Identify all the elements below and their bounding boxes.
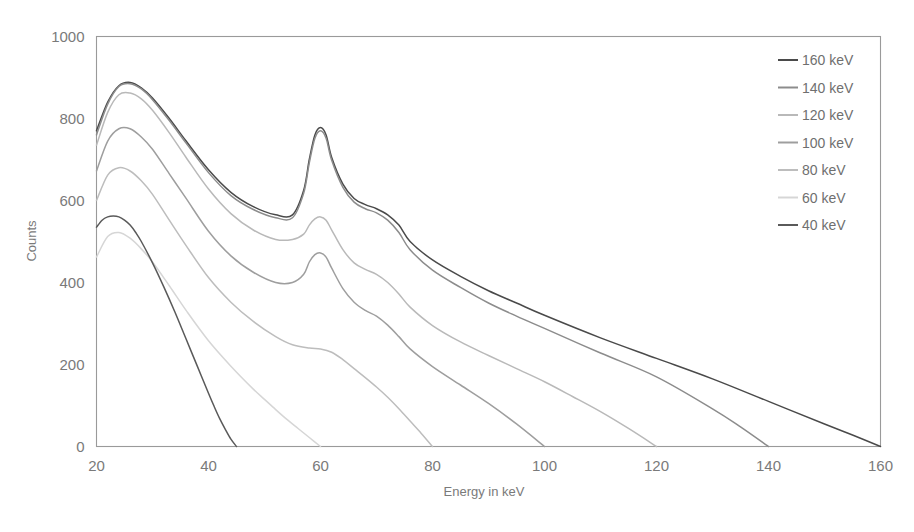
legend-label-80-kev: 80 keV: [802, 162, 846, 178]
y-tick-200: 200: [59, 356, 84, 373]
y-tick-800: 800: [59, 110, 84, 127]
y-tick-400: 400: [59, 274, 84, 291]
legend-label-100-kev: 100 keV: [802, 135, 854, 151]
chart-figure: 02004006008001000 20406080100120140160 E…: [0, 0, 914, 532]
x-tick-120: 120: [644, 457, 669, 474]
x-axis-title: Energy in keV: [444, 484, 525, 499]
spectrum-line-chart: 02004006008001000 20406080100120140160 E…: [0, 0, 914, 532]
y-tick-600: 600: [59, 192, 84, 209]
y-axis-title: Counts: [24, 220, 39, 262]
y-tick-0: 0: [76, 438, 84, 455]
chart-background: [0, 0, 914, 532]
legend-label-60-kev: 60 keV: [802, 190, 846, 206]
x-tick-40: 40: [200, 457, 217, 474]
x-tick-80: 80: [424, 457, 441, 474]
x-tick-160: 160: [868, 457, 893, 474]
legend-label-160-kev: 160 keV: [802, 52, 854, 68]
legend-label-140-kev: 140 keV: [802, 80, 854, 96]
x-tick-140: 140: [756, 457, 781, 474]
x-tick-20: 20: [88, 457, 105, 474]
x-tick-60: 60: [312, 457, 329, 474]
legend-label-40-kev: 40 keV: [802, 217, 846, 233]
legend-label-120-kev: 120 keV: [802, 107, 854, 123]
x-tick-100: 100: [532, 457, 557, 474]
y-tick-1000: 1000: [51, 28, 84, 45]
